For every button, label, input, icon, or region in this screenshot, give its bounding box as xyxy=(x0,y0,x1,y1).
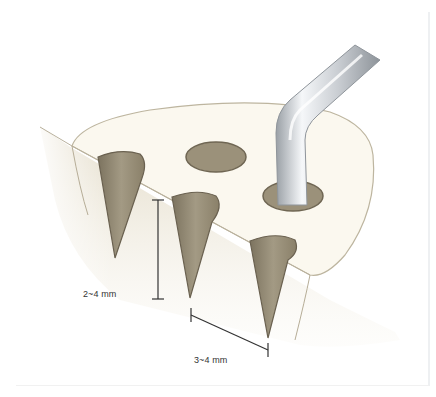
bone-illustration xyxy=(0,0,436,397)
drill-hole-top xyxy=(186,142,246,172)
spacing-label: 3~4 mm xyxy=(194,355,227,365)
depth-label: 2~4 mm xyxy=(83,289,116,299)
